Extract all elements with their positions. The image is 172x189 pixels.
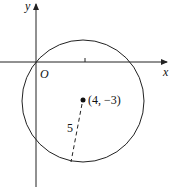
origin-label: O bbox=[40, 67, 49, 81]
diagram-canvas: y x O (4, −3) 5 bbox=[0, 0, 172, 189]
center-label: (4, −3) bbox=[88, 93, 121, 107]
x-axis-label: x bbox=[162, 65, 169, 79]
center-point bbox=[81, 98, 86, 103]
radius-label: 5 bbox=[67, 121, 73, 135]
y-axis-label: y bbox=[24, 0, 31, 13]
